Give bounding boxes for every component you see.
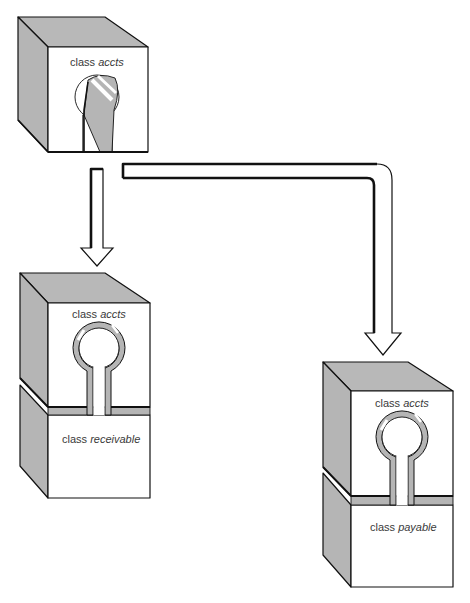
base-class-label: class accts: [70, 56, 124, 68]
derived-block-front-face: [351, 505, 453, 587]
receivable-class-label: class receivable: [62, 433, 140, 445]
arrow-shadow-edge: [123, 178, 374, 333]
inheritance-diagram: class accts class receivable class acct: [0, 0, 470, 603]
keyhole-hole: [382, 417, 422, 457]
bent-arrow-icon: [123, 164, 401, 355]
keyhole-hole: [79, 328, 119, 368]
payable-stack: class payable class accts: [323, 362, 453, 587]
payable-class-label: class payable: [370, 521, 437, 533]
derived-block-front-face: [48, 415, 150, 498]
down-arrow-icon: [81, 169, 113, 266]
accts-label-left: class accts: [72, 308, 126, 320]
accts-label-right: class accts: [375, 397, 429, 409]
receivable-stack: class receivable class accts: [20, 273, 150, 498]
arrow-to-receivable: [81, 169, 113, 266]
base-class-block: class accts: [18, 17, 148, 153]
arrow-to-payable: [123, 164, 401, 355]
